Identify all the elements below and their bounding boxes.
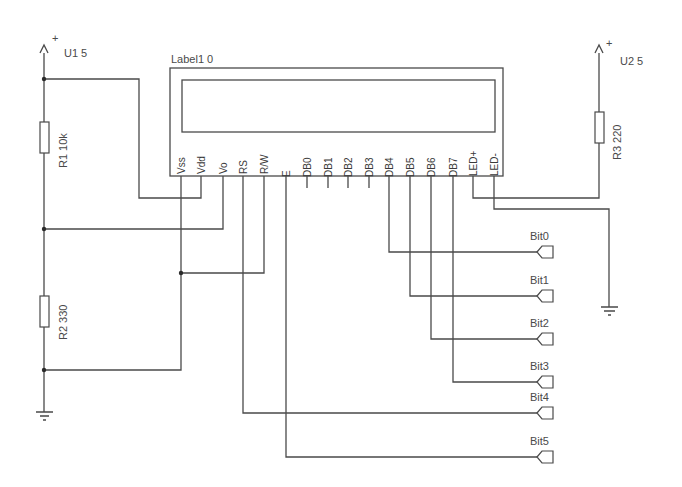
power-source-u2[interactable]: + U2 5 xyxy=(595,37,643,112)
connector-label-bit4: Bit4 xyxy=(530,391,549,403)
pin-label-vdd: Vdd xyxy=(196,156,207,174)
pin-label-db5: DB5 xyxy=(405,157,416,177)
pin-label-db7: DB7 xyxy=(448,157,459,177)
connector-label-bit3: Bit3 xyxy=(530,360,549,372)
resistor-label-r1: R1 10k xyxy=(57,133,69,168)
schematic-canvas: + U1 5 + U2 5 R1 10k R2 330 Label1 0 Vss… xyxy=(0,0,682,487)
ground-left xyxy=(36,412,53,420)
pin-label-rw: R/W xyxy=(259,154,270,174)
wire-db7-bit3 xyxy=(453,176,537,382)
ground-icon xyxy=(601,307,618,315)
pin-label-db6: DB6 xyxy=(426,157,437,177)
connector-label-bit2: Bit2 xyxy=(530,317,549,329)
wire-e-bit5 xyxy=(286,176,537,457)
connector-bit0[interactable]: Bit0 xyxy=(530,230,553,258)
connector-label-bit0: Bit0 xyxy=(530,230,549,242)
wire-db4-bit0 xyxy=(389,176,537,252)
connector-icon xyxy=(537,451,553,463)
resistor-body-icon xyxy=(40,122,49,153)
connector-bit5[interactable]: Bit5 xyxy=(530,435,553,463)
pin-label-led-plus: LED+ xyxy=(468,151,479,176)
pin-label-db0: DB0 xyxy=(302,157,313,177)
pin-label-db1: DB1 xyxy=(323,157,334,177)
connector-icon xyxy=(537,376,553,388)
pin-label-db2: DB2 xyxy=(343,157,354,177)
lcd-pin-labels: Vss Vdd Vo RS R/W E DB0 DB1 DB2 DB3 DB4 … xyxy=(176,151,500,177)
connector-label-bit1: Bit1 xyxy=(530,274,549,286)
connector-bit2[interactable]: Bit2 xyxy=(530,317,553,345)
lcd-unused-pin-stubs xyxy=(307,176,369,188)
pin-label-vo: Vo xyxy=(218,162,229,174)
resistor-body-icon xyxy=(40,296,49,327)
resistor-body-icon xyxy=(595,112,604,143)
connector-icon xyxy=(537,333,553,345)
power-label-u2: U2 5 xyxy=(620,55,643,67)
connector-bit4[interactable]: Bit4 xyxy=(530,391,553,419)
connector-icon xyxy=(537,246,553,258)
connector-label-bit5: Bit5 xyxy=(530,435,549,447)
resistor-label-r3: R3 220 xyxy=(611,125,623,160)
pin-label-db3: DB3 xyxy=(364,157,375,177)
connector-bit3[interactable]: Bit3 xyxy=(530,360,553,388)
connector-icon xyxy=(537,290,553,302)
pin-label-db4: DB4 xyxy=(384,157,395,177)
connector-icon xyxy=(537,407,553,419)
power-arrow-icon xyxy=(595,45,603,53)
ground-right xyxy=(601,307,618,315)
wire-rs-bit4 xyxy=(243,176,537,413)
ground-icon xyxy=(36,412,53,420)
resistor-label-r2: R2 330 xyxy=(57,305,69,340)
wire-vo-divider xyxy=(44,176,223,229)
pin-label-rs: RS xyxy=(238,160,249,174)
wire-ledminus-gnd xyxy=(494,176,609,307)
wire-db6-bit2 xyxy=(431,176,537,339)
junction-dot xyxy=(42,77,46,81)
lcd-module[interactable]: Label1 0 Vss Vdd Vo RS R/W E DB0 DB1 DB2… xyxy=(170,53,503,188)
pin-label-vss: Vss xyxy=(176,157,187,174)
pin-label-e: E xyxy=(281,170,292,177)
power-plus-label: + xyxy=(52,32,58,44)
power-arrow-icon xyxy=(40,45,48,53)
lcd-screen xyxy=(182,80,495,132)
pin-label-led-minus: LED- xyxy=(489,153,500,176)
power-plus-label: + xyxy=(606,37,612,49)
junction-dot xyxy=(42,368,46,372)
lcd-label: Label1 0 xyxy=(171,53,213,65)
power-source-u1[interactable]: + U1 5 xyxy=(40,32,87,79)
junction-dot xyxy=(179,271,183,275)
junction-dot xyxy=(42,227,46,231)
connector-bit1[interactable]: Bit1 xyxy=(530,274,553,302)
power-label-u1: U1 5 xyxy=(64,47,87,59)
